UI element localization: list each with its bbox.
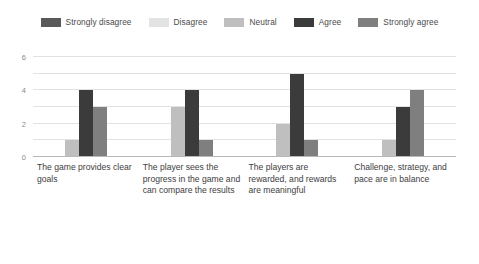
x-axis-category-label: The players are rewarded, and rewards ar… bbox=[245, 162, 351, 197]
bar-group bbox=[139, 57, 245, 157]
plot-area bbox=[33, 57, 456, 157]
x-axis-line bbox=[33, 156, 456, 157]
y-axis-ticks: 0246 bbox=[0, 57, 30, 157]
x-axis-category-label: Challenge, strategy, and pace are in bal… bbox=[350, 162, 456, 197]
y-axis-tick-label: 6 bbox=[22, 53, 26, 62]
bar[interactable] bbox=[79, 90, 93, 157]
x-axis-category-label: The player sees the progress in the game… bbox=[139, 162, 245, 197]
x-axis-labels: The game provides clear goalsThe player … bbox=[33, 162, 456, 197]
legend-item[interactable]: Strongly agree bbox=[358, 17, 438, 27]
legend-item[interactable]: Neutral bbox=[224, 17, 276, 27]
bar-chart: Strongly disagreeDisagreeNeutralAgreeStr… bbox=[0, 0, 479, 264]
bar[interactable] bbox=[171, 107, 185, 157]
legend-swatch bbox=[149, 18, 169, 27]
y-axis-tick-label: 2 bbox=[22, 119, 26, 128]
bar[interactable] bbox=[65, 140, 79, 157]
bar-group bbox=[245, 57, 351, 157]
legend-label: Strongly agree bbox=[383, 17, 438, 27]
bar-group bbox=[350, 57, 456, 157]
chart-legend: Strongly disagreeDisagreeNeutralAgreeStr… bbox=[0, 17, 479, 27]
legend-item[interactable]: Disagree bbox=[149, 17, 208, 27]
bar[interactable] bbox=[410, 90, 424, 157]
bar[interactable] bbox=[382, 140, 396, 157]
legend-label: Neutral bbox=[249, 17, 276, 27]
legend-item[interactable]: Agree bbox=[294, 17, 342, 27]
legend-swatch bbox=[224, 18, 244, 27]
bar-group bbox=[33, 57, 139, 157]
y-axis-tick-label: 4 bbox=[22, 86, 26, 95]
bar[interactable] bbox=[304, 140, 318, 157]
legend-swatch bbox=[358, 18, 378, 27]
bar[interactable] bbox=[199, 140, 213, 157]
bar[interactable] bbox=[290, 74, 304, 157]
legend-label: Strongly disagree bbox=[66, 17, 132, 27]
legend-swatch bbox=[41, 18, 61, 27]
legend-label: Disagree bbox=[174, 17, 208, 27]
x-axis-category-label: The game provides clear goals bbox=[33, 162, 139, 197]
bar[interactable] bbox=[276, 124, 290, 157]
bar-groups bbox=[33, 57, 456, 157]
y-axis-tick-label: 0 bbox=[22, 153, 26, 162]
legend-swatch bbox=[294, 18, 314, 27]
legend-label: Agree bbox=[319, 17, 342, 27]
bar[interactable] bbox=[185, 90, 199, 157]
bar[interactable] bbox=[396, 107, 410, 157]
legend-item[interactable]: Strongly disagree bbox=[41, 17, 132, 27]
bar[interactable] bbox=[93, 107, 107, 157]
